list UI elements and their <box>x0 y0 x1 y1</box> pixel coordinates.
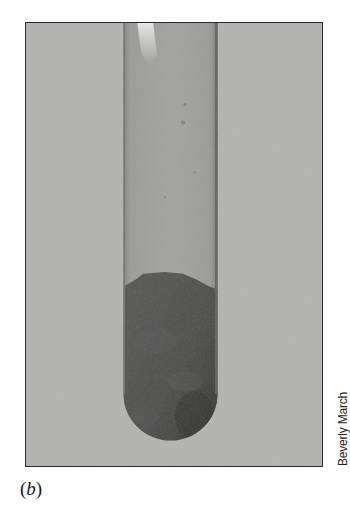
photo-credit: Beverly March <box>336 392 350 466</box>
panel-label-letter: b <box>26 478 36 499</box>
panel-label: (b) <box>20 478 42 500</box>
test-tube-photo <box>25 22 323 467</box>
panel-label-close: ) <box>36 478 42 499</box>
